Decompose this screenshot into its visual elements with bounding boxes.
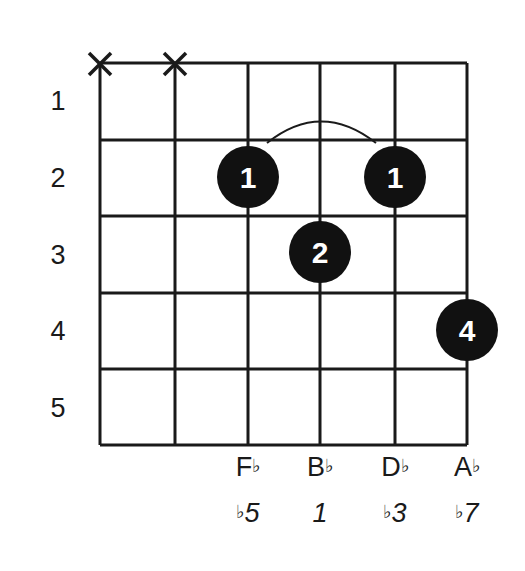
finger-number: 1 bbox=[387, 161, 404, 194]
finger-dots: 1 1 2 4 bbox=[217, 146, 498, 361]
fret-number-1: 1 bbox=[38, 86, 78, 117]
fret-number-4: 4 bbox=[38, 316, 78, 347]
fretboard-grid bbox=[100, 63, 467, 445]
fret-number-5: 5 bbox=[38, 393, 78, 424]
note-name: A♭ bbox=[437, 452, 497, 483]
interval-label: ♭5 bbox=[218, 498, 278, 529]
finger-dot: 4 bbox=[436, 299, 498, 361]
fret-number-2: 2 bbox=[38, 163, 78, 194]
interval-label: ♭7 bbox=[437, 498, 497, 529]
interval-label: ♭3 bbox=[365, 498, 425, 529]
finger-dot: 1 bbox=[217, 146, 279, 208]
note-name: F♭ bbox=[218, 452, 278, 483]
interval-label: 1 bbox=[290, 498, 350, 529]
note-name: B♭ bbox=[290, 452, 350, 483]
finger-dot: 1 bbox=[364, 146, 426, 208]
finger-dot: 2 bbox=[289, 221, 351, 283]
finger-number: 2 bbox=[312, 236, 329, 269]
note-name: D♭ bbox=[365, 452, 425, 483]
chord-diagram: 1 1 2 4 bbox=[0, 0, 525, 571]
finger-number: 4 bbox=[459, 314, 476, 347]
finger-number: 1 bbox=[240, 161, 257, 194]
fret-number-3: 3 bbox=[38, 240, 78, 271]
